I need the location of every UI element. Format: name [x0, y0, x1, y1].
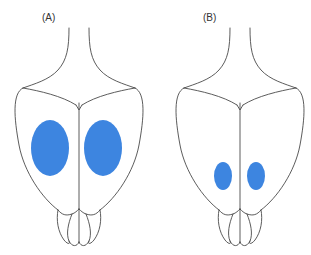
lesion-a-left — [31, 120, 69, 176]
brain-diagram-svg: (A) — [0, 0, 311, 255]
panel-b-brain-outline — [176, 28, 304, 246]
lesion-b-left — [214, 162, 232, 190]
panel-a: (A) — [15, 12, 143, 246]
lesion-b-right — [247, 162, 265, 190]
panel-b: (B) — [176, 12, 304, 246]
figure-container: (A) — [0, 0, 311, 255]
panel-b-lesions — [214, 162, 265, 190]
panel-a-label: (A) — [42, 12, 55, 23]
lesion-a-right — [84, 120, 122, 176]
panel-a-lesions — [31, 120, 122, 176]
panel-b-label: (B) — [203, 12, 216, 23]
